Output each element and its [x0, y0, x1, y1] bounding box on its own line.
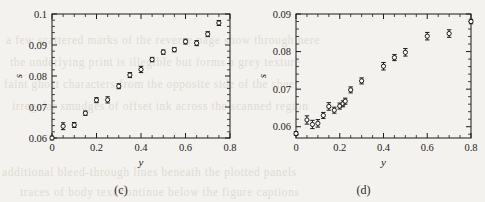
data-point	[61, 123, 65, 130]
y-axis-label: s	[256, 74, 268, 78]
data-point	[50, 136, 54, 140]
x-tick-label: 0	[293, 142, 298, 153]
data-point	[183, 39, 187, 44]
x-tick-label: 0.4	[377, 142, 391, 153]
x-tick-label: 0.8	[464, 142, 477, 153]
x-tick-label: 0	[49, 142, 54, 153]
y-tick-label: 0.09	[273, 9, 291, 20]
data-point	[332, 107, 336, 113]
data-point	[94, 98, 98, 103]
y-tick-label: 0.06	[29, 133, 47, 144]
data-point	[327, 103, 331, 111]
data-point	[172, 47, 176, 51]
data-point	[150, 57, 154, 61]
data-point	[381, 62, 385, 70]
y-tick-label: 0.09	[29, 40, 47, 51]
y-tick-label: 0.08	[29, 71, 47, 82]
data-series	[294, 19, 473, 135]
x-tick-label: 0.2	[333, 142, 346, 153]
data-point	[194, 41, 198, 46]
x-axis-label: y	[138, 156, 144, 168]
y-tick-label: 0.06	[273, 121, 291, 132]
data-point	[469, 19, 473, 24]
plot-frame	[296, 14, 471, 138]
figure: 00.20.40.60.80.060.070.080.090.1ys (c) 0…	[0, 0, 485, 202]
data-point	[447, 30, 451, 38]
panel-caption-d: (d)	[242, 183, 485, 198]
data-point	[310, 120, 314, 128]
data-point	[117, 84, 121, 89]
x-axis-label: y	[380, 156, 386, 168]
x-tick-label: 0.2	[90, 142, 103, 153]
x-tick-label: 0.6	[179, 142, 192, 153]
panel-c: 00.20.40.60.80.060.070.080.090.1ys (c)	[0, 0, 242, 202]
data-point	[403, 49, 407, 57]
data-point	[206, 32, 210, 37]
y-tick-label: 0.07	[273, 84, 291, 95]
x-tick-label: 0.8	[223, 142, 236, 153]
x-tick-label: 0.6	[421, 142, 434, 153]
data-point	[161, 50, 165, 54]
data-point	[392, 55, 396, 61]
data-point	[128, 73, 132, 78]
panel-caption-c: (c)	[0, 183, 242, 198]
data-point	[139, 66, 143, 72]
x-tick-label: 0.4	[134, 142, 148, 153]
data-point	[316, 120, 320, 128]
data-point	[72, 123, 76, 128]
data-point	[348, 87, 352, 93]
data-point	[294, 131, 298, 135]
panel-d: 00.20.40.60.80.060.070.080.09ys (d)	[242, 0, 485, 202]
data-point	[321, 112, 325, 118]
y-tick-label: 0.08	[273, 46, 291, 57]
data-point	[305, 116, 309, 124]
y-tick-label: 0.07	[29, 102, 47, 113]
data-point	[425, 32, 429, 40]
y-tick-label: 0.1	[34, 9, 47, 20]
y-axis-label: s	[12, 74, 24, 78]
data-point	[217, 21, 221, 26]
scatter-plot-d: 00.20.40.60.80.060.070.080.09ys	[242, 0, 485, 178]
data-point	[359, 78, 363, 84]
scatter-plot-c: 00.20.40.60.80.060.070.080.090.1ys	[0, 0, 242, 178]
data-point	[105, 97, 109, 103]
plot-frame	[52, 14, 230, 138]
data-point	[83, 111, 87, 115]
data-series	[50, 21, 221, 141]
